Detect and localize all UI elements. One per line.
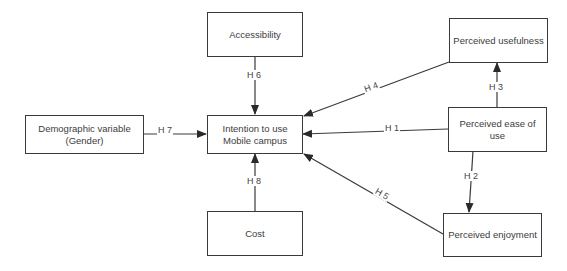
edge-label-h2: H 2 (463, 171, 479, 181)
node-demographic-line2: (Gender) (65, 135, 103, 147)
edge-label-h3: H 3 (488, 82, 504, 92)
node-accessibility-label: Accessibility (229, 29, 281, 41)
node-enjoyment-label: Perceived enjoyment (448, 229, 537, 241)
node-intention-line1: Intention to use (223, 123, 288, 135)
node-intention-line2: Mobile campus (223, 135, 287, 147)
node-demographic: Demographic variable (Gender) (25, 115, 144, 154)
node-ease-line2: use (490, 130, 505, 142)
edge-label-h1: H 1 (384, 123, 400, 133)
node-demographic-line1: Demographic variable (38, 123, 130, 135)
node-ease: Perceived ease of use (448, 107, 547, 152)
node-accessibility: Accessibility (207, 12, 303, 57)
node-cost: Cost (207, 211, 303, 256)
edge-h2 (469, 151, 473, 212)
node-ease-line1: Perceived ease of (459, 118, 535, 130)
edge-label-h8: H 8 (246, 176, 262, 186)
edge-h1 (303, 129, 448, 134)
node-intention: Intention to use Mobile campus (207, 115, 303, 154)
node-cost-label: Cost (245, 228, 265, 240)
edge-label-h7: H 7 (157, 125, 173, 135)
node-usefulness: Perceived usefulness (449, 18, 548, 63)
node-enjoyment: Perceived enjoyment (443, 213, 542, 257)
edge-label-h6: H 6 (246, 70, 262, 80)
node-usefulness-label: Perceived usefulness (453, 35, 543, 47)
